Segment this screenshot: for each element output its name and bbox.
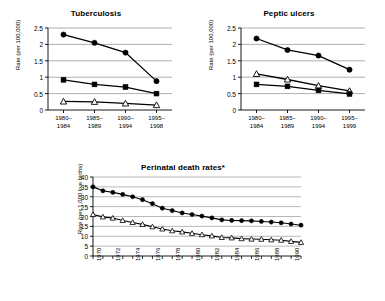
data-point-filled-circle (131, 195, 135, 199)
data-point-filled-square (316, 88, 321, 93)
chart-panel-tuberculosis: Tuberculosis Rate (per 100,000) 00.511.5… (0, 0, 192, 152)
data-point-filled-circle (170, 208, 174, 212)
data-point-filled-circle (154, 79, 159, 84)
x-tick-label: 1976 (155, 248, 161, 261)
x-tick-label: 1984 (234, 248, 240, 261)
data-point-filled-circle (61, 32, 66, 37)
plot-area-peptic-ulcers: 00.511.522.51980–19841985–19891990–19941… (241, 28, 365, 110)
y-tick-label: 2 (21, 41, 43, 48)
y-tick-label: 15 (68, 223, 88, 230)
x-tick-label: 1972 (115, 248, 121, 261)
series-line-filled-circle (64, 35, 157, 82)
series-line-filled-circle (257, 38, 350, 69)
y-tick-label: 40 (68, 174, 88, 181)
plot-area-perinatal: 0510152025303540197019721974197619781980… (93, 177, 301, 256)
x-tick-label: 1970 (96, 248, 102, 261)
data-point-filled-circle (249, 219, 253, 223)
data-point-filled-circle (160, 206, 164, 210)
y-tick-label: 1 (214, 74, 236, 81)
y-tick-label: 2.5 (21, 25, 43, 32)
data-point-filled-circle (269, 220, 273, 224)
y-tick-label: 0 (21, 107, 43, 114)
y-tick-label: 10 (68, 233, 88, 240)
y-tick-label: 30 (68, 193, 88, 200)
y-tick-label: 5 (68, 243, 88, 250)
x-tick-label: 1995–1998 (137, 114, 177, 130)
data-point-filled-circle (150, 202, 154, 206)
x-tick-label: 1986 (254, 248, 260, 261)
x-tick-label: 1990 (294, 248, 300, 261)
y-tick-label: 25 (68, 203, 88, 210)
data-point-filled-circle (140, 198, 144, 202)
chart-canvas-peptic_ulcers (241, 28, 379, 112)
chart-title-peptic-ulcers: Peptic ulcers (193, 9, 385, 18)
y-tick-label: 0 (68, 253, 88, 260)
data-point-filled-square (254, 82, 259, 87)
data-point-filled-circle (254, 36, 259, 41)
data-point-filled-square (61, 77, 66, 82)
data-point-open-triangle (253, 71, 259, 77)
data-point-filled-circle (316, 53, 321, 58)
chart-canvas-tuberculosis (48, 28, 186, 112)
data-point-filled-circle (101, 189, 105, 193)
data-point-filled-circle (239, 219, 243, 223)
data-point-filled-circle (279, 221, 283, 225)
x-tick-label: 1982 (214, 248, 220, 261)
chart-title-perinatal: Perinatal death rates* (58, 163, 308, 172)
y-tick-label: 35 (68, 183, 88, 190)
x-tick-label: 1978 (175, 248, 181, 261)
data-point-filled-circle (230, 218, 234, 222)
data-point-filled-circle (289, 222, 293, 226)
x-tick-label: 1980 (195, 248, 201, 261)
plot-area-tuberculosis: 00.511.522.51980–19841985–19891990–19941… (48, 28, 172, 110)
x-tick-label: 1974 (135, 248, 141, 261)
series-line-open-triangle (64, 101, 157, 105)
data-point-filled-circle (121, 192, 125, 196)
data-point-filled-circle (285, 47, 290, 52)
data-point-filled-circle (92, 40, 97, 45)
x-tick-label: 1988 (274, 248, 280, 261)
data-point-filled-circle (220, 218, 224, 222)
data-point-filled-circle (259, 219, 263, 223)
chart-canvas-perinatal (93, 177, 305, 258)
y-tick-label: 1.5 (214, 57, 236, 64)
y-tick-label: 0.5 (21, 90, 43, 97)
chart-title-tuberculosis: Tuberculosis (0, 9, 192, 18)
chart-panel-perinatal: Perinatal death rates* Rate (per 1,000 l… (58, 158, 385, 301)
x-tick-label: 1995–1999 (330, 114, 370, 130)
series-line-open-triangle (93, 215, 301, 243)
y-tick-label: 1 (21, 74, 43, 81)
data-point-filled-square (92, 82, 97, 87)
data-point-filled-circle (123, 50, 128, 55)
series-line-filled-square (64, 80, 157, 94)
y-tick-label: 2.5 (214, 25, 236, 32)
y-tick-label: 0.5 (214, 90, 236, 97)
y-tick-label: 20 (68, 213, 88, 220)
data-point-filled-circle (111, 190, 115, 194)
data-point-filled-square (123, 85, 128, 90)
data-point-filled-circle (299, 223, 303, 227)
y-tick-label: 0 (214, 107, 236, 114)
y-tick-label: 1.5 (21, 57, 43, 64)
data-point-filled-square (285, 84, 290, 89)
data-point-open-triangle (90, 212, 95, 217)
data-point-filled-circle (347, 67, 352, 72)
data-point-filled-square (347, 92, 352, 97)
data-point-filled-circle (190, 212, 194, 216)
y-tick-label: 2 (214, 41, 236, 48)
data-point-filled-circle (180, 211, 184, 215)
data-point-filled-circle (200, 214, 204, 218)
data-point-filled-circle (91, 185, 95, 189)
chart-panel-peptic-ulcers: Peptic ulcers Rate (per 100,000) 00.511.… (193, 0, 385, 152)
data-point-filled-square (154, 91, 159, 96)
data-point-filled-circle (210, 216, 214, 220)
